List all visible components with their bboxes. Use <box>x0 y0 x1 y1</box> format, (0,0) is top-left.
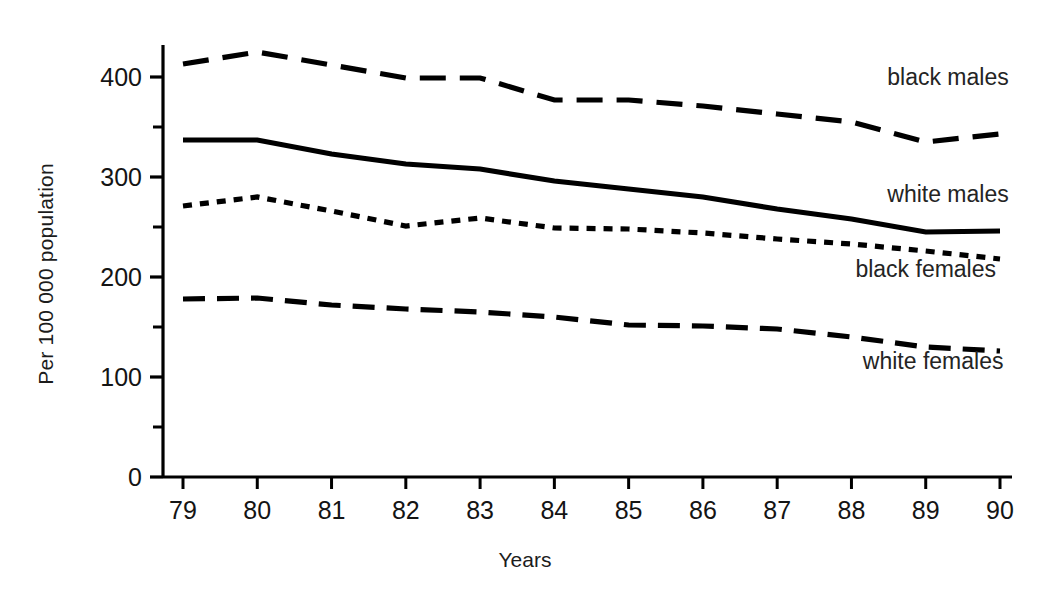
x-tick-label: 81 <box>318 496 346 524</box>
x-tick-label: 88 <box>838 496 866 524</box>
x-tick-label: 85 <box>615 496 643 524</box>
series-label: white females <box>862 348 1004 374</box>
chart-figure: Per 100 000 population 0100200300400 798… <box>0 0 1050 605</box>
x-tick-label: 83 <box>466 496 494 524</box>
x-axis: 798081828384858687888990 <box>163 477 1014 524</box>
x-tick-label: 80 <box>243 496 271 524</box>
x-tick-label: 87 <box>763 496 791 524</box>
series-label: black males <box>887 64 1008 90</box>
y-axis: 0100200300400 <box>100 45 163 491</box>
series-lines <box>183 52 1000 351</box>
x-tick-label: 90 <box>986 496 1014 524</box>
series-label: white males <box>886 181 1008 207</box>
y-tick-label: 400 <box>100 63 142 91</box>
x-tick-label: 79 <box>169 496 197 524</box>
x-tick-label: 84 <box>540 496 568 524</box>
series-line-white-females <box>183 298 1000 351</box>
series-labels: black maleswhite malesblack femaleswhite… <box>855 64 1008 374</box>
x-axis-title: Years <box>0 548 1050 572</box>
y-tick-label: 0 <box>128 463 142 491</box>
x-tick-label: 89 <box>912 496 940 524</box>
series-line-black-females <box>183 197 1000 259</box>
y-tick-label: 200 <box>100 263 142 291</box>
series-label: black females <box>855 256 996 282</box>
x-tick-label: 86 <box>689 496 717 524</box>
y-axis-title: Per 100 000 population <box>34 124 58 424</box>
y-tick-label: 300 <box>100 163 142 191</box>
x-tick-label: 82 <box>392 496 420 524</box>
series-line-white-males <box>183 140 1000 232</box>
line-chart-canvas: 0100200300400 798081828384858687888990 b… <box>0 0 1050 605</box>
y-tick-label: 100 <box>100 363 142 391</box>
series-line-black-males <box>183 52 1000 142</box>
